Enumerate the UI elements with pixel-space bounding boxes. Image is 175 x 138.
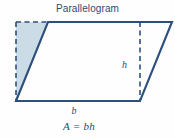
area-formula-label: A = bh (0, 120, 158, 133)
base-label: b (0, 105, 148, 117)
figure-container: Parallelogram h b A = bh (0, 0, 175, 138)
height-label: h (122, 59, 127, 71)
parallelogram-diagram (0, 0, 175, 138)
